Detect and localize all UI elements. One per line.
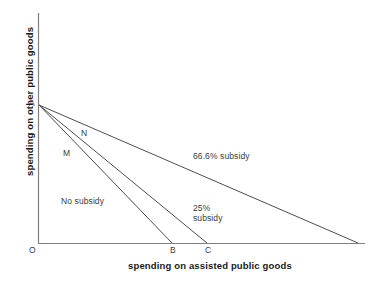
point-label-c: C (205, 245, 211, 255)
annotation-subsidy-666: 66.6% subsidy (193, 151, 250, 161)
point-label-origin: O (29, 245, 36, 255)
point-label-n: N (81, 128, 87, 138)
budget-line-25-subsidy (39, 105, 207, 243)
point-label-b: B (170, 245, 176, 255)
plot-area (0, 0, 377, 281)
annotation-subsidy-25: 25% subsidy (193, 203, 239, 223)
y-axis-title: spending on other public goods (24, 27, 35, 176)
x-axis-title: spending on assisted public goods (128, 260, 292, 271)
budget-constraint-figure: A O B C M N No subsidy 66.6% subsidy 25%… (0, 0, 377, 281)
point-label-m: M (63, 148, 70, 158)
budget-line-no-subsidy (39, 105, 172, 243)
annotation-no-subsidy: No subsidy (61, 196, 104, 206)
